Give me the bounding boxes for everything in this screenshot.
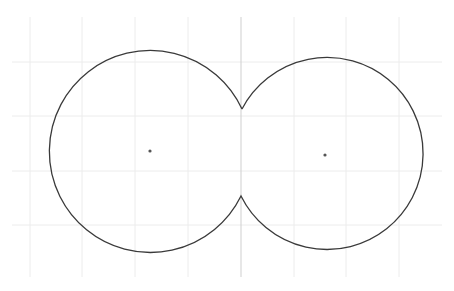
diagram-canvas	[0, 0, 454, 291]
two-circle-union-outline	[49, 50, 423, 252]
grid	[12, 17, 442, 277]
right-circle-center-point[interactable]	[323, 153, 326, 156]
left-circle-center-point[interactable]	[148, 149, 151, 152]
